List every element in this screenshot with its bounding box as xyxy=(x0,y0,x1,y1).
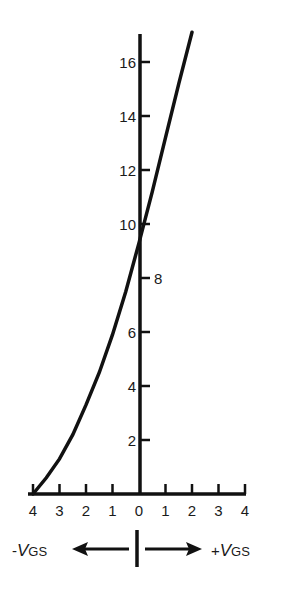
y-tick-label: 2 xyxy=(128,432,136,449)
y-tick-label: 12 xyxy=(119,162,136,179)
y-tick-label: 4 xyxy=(128,378,136,395)
x-tick-label: 2 xyxy=(188,502,196,519)
x-tick-label: 1 xyxy=(161,502,169,519)
neg-vgs-label: -VGS xyxy=(12,541,47,560)
pos-vgs-label: +VGS xyxy=(211,541,250,560)
vgs-direction-indicator: -VGS +VGS xyxy=(12,530,250,567)
y-tick-label: 8 xyxy=(154,270,162,287)
x-tick-label: 2 xyxy=(82,502,90,519)
x-tick-label: 3 xyxy=(55,502,63,519)
x-tick-label: 4 xyxy=(241,502,249,519)
y-tick-label: 10 xyxy=(119,216,136,233)
x-tick-label: 4 xyxy=(29,502,37,519)
transfer-characteristic-chart: 246810121416 432101234 -VGS +VGS xyxy=(0,0,284,589)
x-tick-label: 3 xyxy=(214,502,222,519)
y-tick-label: 16 xyxy=(119,54,136,71)
x-tick-label: 0 xyxy=(135,502,143,519)
y-tick-label: 14 xyxy=(119,108,136,125)
x-tick-label: 1 xyxy=(108,502,116,519)
transfer-curve xyxy=(33,32,192,494)
y-tick-label: 6 xyxy=(128,324,136,341)
